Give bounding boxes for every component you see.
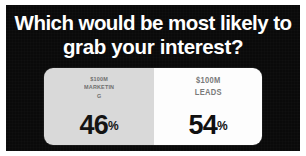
poll-question-line-2: grab your interest? [14, 35, 292, 59]
poll-option-leads[interactable]: $100M LEADS 54% [154, 68, 262, 145]
poll-card: Which would be most likely to grab your … [6, 5, 300, 151]
poll-option-marketing-label-line-1: $100M [90, 75, 108, 82]
poll-option-leads-value-number: 54 [188, 110, 216, 140]
poll-option-marketing-label-line-3: G [97, 92, 101, 99]
poll-option-marketing-percent-sign: % [108, 119, 119, 133]
poll-question: Which would be most likely to grab your … [14, 11, 292, 59]
poll-option-marketing[interactable]: $100M MARKETIN G 46% [44, 68, 154, 145]
poll-option-marketing-value: 46% [44, 112, 154, 139]
poll-question-line-1: Which would be most likely to [14, 11, 292, 35]
poll-option-leads-label: $100M LEADS [195, 75, 222, 98]
poll-results-bar: $100M MARKETIN G 46% $100M LEADS 54% [44, 68, 262, 145]
poll-option-marketing-label-line-2: MARKETIN [84, 83, 114, 90]
poll-option-leads-value: 54% [154, 112, 262, 139]
poll-option-marketing-label: $100M MARKETIN G [84, 75, 114, 100]
poll-option-leads-percent-sign: % [217, 119, 228, 133]
poll-option-leads-label-line-1: $100M [196, 75, 220, 85]
poll-option-leads-label-line-2: LEADS [195, 87, 222, 97]
poll-option-marketing-value-number: 46 [79, 110, 107, 140]
